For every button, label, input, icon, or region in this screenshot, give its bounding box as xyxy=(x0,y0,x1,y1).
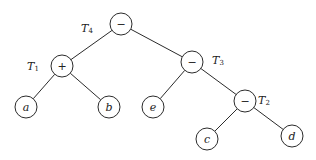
node-label: + xyxy=(57,60,66,73)
node-label: − xyxy=(187,56,196,69)
node-label: e xyxy=(150,101,157,114)
tree-node-d: d xyxy=(281,125,303,147)
node-label: − xyxy=(116,18,125,31)
node-label: a xyxy=(23,101,30,114)
tree-nodes: −+−abe−cd xyxy=(15,13,303,150)
tree-node-minus2: − xyxy=(234,90,256,112)
edge-plus-b xyxy=(70,73,100,100)
tree-node-c: c xyxy=(196,128,218,150)
edge-minus2-d xyxy=(254,108,283,130)
subtree-label-T1: T1 xyxy=(27,60,39,74)
subtree-label-T2: T2 xyxy=(258,94,270,108)
subtree-label-T3: T3 xyxy=(212,54,224,68)
tree-node-e: e xyxy=(142,96,164,118)
node-label: c xyxy=(204,133,210,146)
node-label: d xyxy=(288,130,295,143)
edge-plus-a xyxy=(33,74,54,98)
edge-minus3-e xyxy=(160,70,185,98)
edge-minus2-c xyxy=(215,109,237,131)
expression-tree-diagram: −+−abe−cd T4T1T3T2 xyxy=(0,0,316,160)
tree-node-b: b xyxy=(98,96,120,118)
tree-node-root: − xyxy=(110,13,132,35)
tree-node-plus: + xyxy=(51,55,73,77)
node-label: b xyxy=(105,101,112,114)
subtree-label-T4: T4 xyxy=(81,22,93,36)
edge-root-minus3 xyxy=(131,29,183,57)
edge-minus3-minus2 xyxy=(201,69,236,95)
tree-node-minus3: − xyxy=(181,51,203,73)
node-label: − xyxy=(240,95,249,108)
tree-node-a: a xyxy=(15,96,37,118)
